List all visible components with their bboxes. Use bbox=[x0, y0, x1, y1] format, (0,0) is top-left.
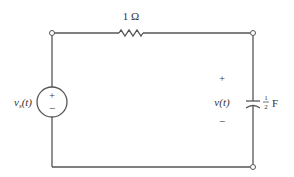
capacitor-label-unit: F bbox=[272, 97, 278, 109]
node-top-right-icon bbox=[251, 31, 256, 36]
source-label: vs(t) bbox=[14, 96, 32, 110]
node-top-left-icon bbox=[50, 31, 55, 36]
circuit-diagram: 1 Ω + − vs(t) 1 2 F + v(t) − bbox=[0, 0, 294, 177]
node-bottom-right-icon bbox=[251, 165, 256, 170]
capacitor-label-den: 2 bbox=[264, 103, 268, 111]
vout-label: v(t) bbox=[214, 96, 230, 109]
source-plus: + bbox=[49, 90, 55, 101]
vout-minus: − bbox=[219, 115, 225, 127]
capacitor: 1 2 F bbox=[246, 94, 278, 111]
vout-plus: + bbox=[219, 73, 225, 84]
source-minus: − bbox=[49, 102, 55, 114]
output-voltage: + v(t) − bbox=[214, 73, 230, 127]
resistor: 1 Ω bbox=[119, 10, 143, 36]
resistor-zigzag bbox=[119, 30, 143, 36]
resistor-label: 1 Ω bbox=[123, 10, 139, 22]
capacitor-label-num: 1 bbox=[264, 94, 268, 102]
voltage-source: + − vs(t) bbox=[14, 87, 67, 117]
